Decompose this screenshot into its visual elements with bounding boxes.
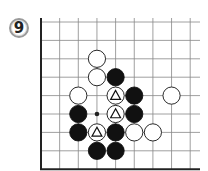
black-stone xyxy=(70,124,87,141)
black-stone xyxy=(126,87,143,104)
black-stone xyxy=(107,142,124,159)
black-stone xyxy=(70,105,87,122)
black-stone xyxy=(107,69,124,86)
black-stone xyxy=(88,142,105,159)
black-stone xyxy=(126,105,143,122)
white-stone xyxy=(144,124,161,141)
white-stone xyxy=(126,124,143,141)
white-stone xyxy=(88,69,105,86)
white-stone xyxy=(163,87,180,104)
star-point xyxy=(95,112,100,117)
white-stone xyxy=(70,87,87,104)
go-board xyxy=(0,0,208,171)
black-stone xyxy=(107,124,124,141)
white-stone xyxy=(88,50,105,67)
